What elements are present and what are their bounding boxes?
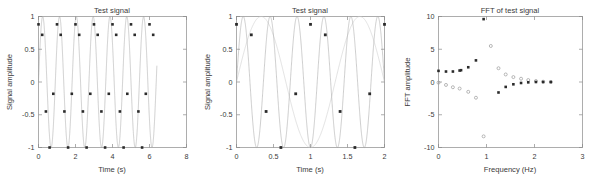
panel-3-x-axis-label: Frequency (Hz): [484, 165, 537, 174]
panel-2-signal-line: [237, 17, 385, 148]
fft-real-marker: [460, 69, 463, 72]
panel-3-frame: [439, 17, 583, 148]
panel-1-plot-area: 02468 -1-0.500.51: [22, 12, 188, 160]
panel-1-signal-lines: [39, 17, 157, 148]
y-tick-label: -0.5: [220, 110, 232, 119]
fft-real-marker: [550, 81, 553, 84]
sample-marker: [141, 146, 144, 149]
sample-marker: [339, 110, 342, 113]
y-tick-label: -5: [428, 110, 434, 119]
continuous-signal-path: [39, 17, 157, 148]
sample-marker: [152, 34, 155, 37]
fft-imaginary-marker: [474, 96, 477, 99]
sample-marker: [250, 33, 253, 36]
x-tick-label: 0: [437, 152, 441, 161]
y-tick-label: 5: [431, 45, 435, 54]
sample-marker: [294, 92, 297, 95]
panel-3-real-markers: [437, 18, 552, 94]
fft-imaginary-marker: [482, 135, 485, 138]
panel-2-frame: [237, 17, 385, 148]
sample-marker: [133, 34, 136, 37]
sample-marker: [85, 146, 88, 149]
y-tick-label: -1: [226, 143, 232, 152]
sample-marker: [59, 34, 62, 37]
x-tick-label: 4: [111, 152, 115, 161]
panel-3-plot-area: 0123 -10-50510: [424, 12, 584, 160]
sample-marker: [93, 23, 96, 26]
fft-imaginary-marker: [444, 83, 447, 86]
sample-marker: [324, 33, 327, 36]
fft-imaginary-marker: [512, 76, 515, 79]
sample-marker: [108, 92, 111, 95]
y-tick-label: 0.5: [223, 45, 233, 54]
sample-marker: [96, 34, 99, 37]
y-tick-label: -1: [28, 143, 34, 152]
fft-imaginary-marker: [467, 90, 470, 93]
sample-marker: [130, 23, 133, 26]
panel-2-plot-area: 00.511.52 -1-0.500.51: [220, 12, 386, 160]
panel-3-y-axis-label: FFT amplitude: [403, 58, 412, 107]
x-tick-label: 1: [485, 152, 489, 161]
figure-container: 02468 -1-0.500.51 Test signal Time (s) S…: [0, 0, 594, 182]
y-tick-label: 1: [31, 12, 35, 21]
sample-marker: [111, 23, 114, 26]
fft-imaginary-marker: [497, 67, 500, 70]
sample-marker: [63, 110, 66, 113]
fft-imaginary-marker: [520, 77, 523, 80]
panel-fft: 0123 -10-50510 FFT of test signal Freque…: [396, 0, 594, 182]
fft-imaginary-marker: [451, 86, 454, 89]
fft-real-marker: [542, 81, 545, 84]
fft-real-marker: [527, 81, 530, 84]
sample-marker: [119, 110, 122, 113]
x-tick-label: 2: [533, 152, 537, 161]
y-tick-label: 0: [229, 78, 233, 87]
sample-marker: [71, 92, 74, 95]
x-tick-label: 8: [185, 152, 189, 161]
panel-3-svg: 0123 -10-50510 FFT of test signal Freque…: [396, 0, 594, 182]
panel-test-signal-full: 02468 -1-0.500.51 Test signal Time (s) S…: [0, 0, 198, 182]
x-tick-label: 0: [235, 152, 239, 161]
panel-3-y-ticks: -10-50510: [424, 12, 582, 152]
sample-marker: [74, 23, 77, 26]
fft-imaginary-marker: [458, 87, 461, 90]
sample-marker: [383, 23, 386, 26]
sample-marker: [145, 92, 148, 95]
sample-marker: [56, 23, 59, 26]
sample-marker: [309, 23, 312, 26]
y-tick-label: -0.5: [22, 110, 34, 119]
sample-marker: [354, 146, 357, 149]
sample-marker: [126, 92, 129, 95]
sample-marker: [89, 92, 92, 95]
sample-marker: [48, 146, 51, 149]
fft-real-marker: [467, 66, 470, 69]
sample-marker: [52, 92, 55, 95]
sample-marker: [115, 34, 118, 37]
fft-real-marker: [482, 18, 485, 21]
panel-1-svg: 02468 -1-0.500.51 Test signal Time (s) S…: [0, 0, 198, 182]
x-tick-label: 0.5: [269, 152, 279, 161]
sample-marker: [45, 110, 48, 113]
sample-marker: [37, 23, 40, 26]
x-tick-label: 6: [148, 152, 152, 161]
fft-imaginary-marker: [489, 44, 492, 47]
continuous-signal-path: [237, 17, 385, 148]
fft-real-marker: [497, 91, 500, 94]
panel-3-imaginary-markers: [437, 44, 552, 137]
fft-real-marker: [520, 82, 523, 85]
y-tick-label: 0: [431, 78, 435, 87]
panel-2-y-axis-label: Signal amplitude: [203, 54, 212, 110]
sample-marker: [280, 146, 283, 149]
sample-marker: [148, 23, 151, 26]
sample-marker: [104, 146, 107, 149]
fft-real-marker: [475, 59, 478, 62]
y-tick-label: -10: [424, 143, 434, 152]
panel-1-x-ticks: 02468: [37, 17, 189, 161]
x-tick-label: 0: [37, 152, 41, 161]
x-tick-label: 1: [309, 152, 313, 161]
x-tick-label: 2: [383, 152, 387, 161]
panel-1-title: Test signal: [94, 6, 130, 15]
panel-2-title: Test signal: [292, 6, 328, 15]
sample-marker: [265, 110, 268, 113]
y-tick-label: 0: [31, 78, 35, 87]
fft-imaginary-marker: [504, 73, 507, 76]
